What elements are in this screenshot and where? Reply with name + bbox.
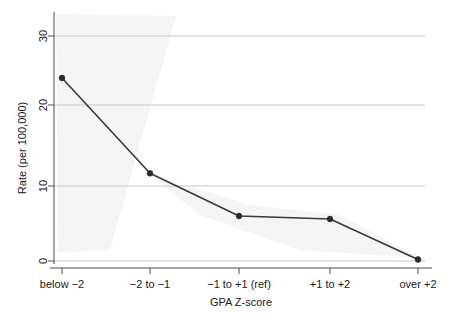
x-tick-label-4: +1 to +2 [310, 278, 350, 290]
confidence-shading-lower [150, 175, 420, 258]
data-point [327, 216, 333, 222]
x-tick-label-1: below −2 [40, 278, 84, 290]
y-tick-label-10: 10 [37, 180, 49, 192]
x-tick-label-5: over +2 [400, 278, 437, 290]
x-tick-label-3: −1 to +1 (ref) [207, 278, 271, 290]
data-point [415, 257, 421, 263]
chart-svg: 30 20 10 0 Rate (per 100,000) below −2 −… [0, 0, 453, 320]
x-tick-label-2: −2 to −1 [130, 278, 170, 290]
data-point [147, 170, 153, 176]
y-tick-label-20: 20 [37, 99, 49, 111]
data-point [59, 75, 65, 81]
data-point [236, 213, 242, 219]
y-tick-label-0: 0 [37, 258, 49, 264]
y-tick-label-30: 30 [37, 30, 49, 42]
confidence-shading [56, 14, 176, 252]
line-chart: 30 20 10 0 Rate (per 100,000) below −2 −… [0, 0, 453, 320]
y-axis-title: Rate (per 100,000) [16, 102, 28, 194]
x-axis-title: GPA Z-score [210, 296, 272, 308]
